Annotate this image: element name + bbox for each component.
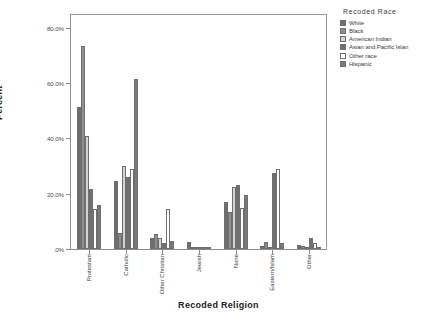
- legend-title: Recoded Race: [343, 8, 436, 15]
- legend-item-label: White: [349, 20, 364, 26]
- y-axis-tick: [66, 83, 70, 84]
- y-axis-tick-label: 80.0%: [24, 24, 64, 31]
- legend-item-label: Black: [349, 28, 363, 34]
- legend: Recoded Race WhiteBlackAmerican IndianAs…: [340, 8, 436, 68]
- bar-group: [187, 14, 211, 249]
- y-axis-tick-label: 40.0%: [24, 135, 64, 142]
- bar-group: [297, 14, 321, 249]
- x-axis-category-label: Jewish: [196, 254, 202, 272]
- bar-group: [260, 14, 284, 249]
- y-axis-tick: [66, 28, 70, 29]
- legend-swatch: [340, 20, 346, 26]
- legend-swatch: [340, 36, 346, 42]
- bar: [134, 79, 138, 249]
- bar-group: [150, 14, 174, 249]
- y-axis-tick-label: .0%: [24, 246, 64, 253]
- bar: [97, 205, 101, 249]
- legend-swatch: [340, 28, 346, 34]
- bar-chart: Percent .0%20.0%40.0%60.0%80.0% Protesta…: [0, 0, 437, 326]
- x-axis-category-label: Protestant: [86, 254, 92, 281]
- x-axis-category-label: Eastern/Islam: [269, 254, 275, 291]
- bar: [244, 195, 248, 249]
- legend-swatch: [340, 53, 346, 59]
- legend-item[interactable]: White: [340, 19, 436, 27]
- legend-item[interactable]: Black: [340, 27, 436, 35]
- legend-item-label: Other race: [349, 53, 377, 59]
- bar: [276, 169, 280, 249]
- y-axis-title: Percent: [0, 86, 4, 120]
- bar: [170, 241, 174, 249]
- y-axis-tick-label: 20.0%: [24, 190, 64, 197]
- x-axis-category-label: Other Christian: [159, 254, 165, 294]
- bar-group: [224, 14, 248, 249]
- y-axis-tick: [66, 194, 70, 195]
- legend-item-label: American Indian: [349, 36, 392, 42]
- x-axis-title: Recoded Religion: [0, 300, 437, 310]
- legend-swatch: [340, 44, 346, 50]
- legend-item-label: Asian and Pacific Islan: [349, 44, 408, 50]
- y-axis-tick-label: 60.0%: [24, 80, 64, 87]
- legend-item-label: Hispanic: [349, 61, 372, 67]
- y-axis-tick: [66, 138, 70, 139]
- bar-group: [114, 14, 138, 249]
- legend-swatch: [340, 61, 346, 67]
- bar-group: [77, 14, 101, 249]
- legend-item[interactable]: American Indian: [340, 35, 436, 43]
- bars-layer: [71, 14, 327, 249]
- x-axis-category-label: Other: [306, 254, 312, 269]
- legend-item[interactable]: Hispanic: [340, 60, 436, 68]
- legend-item[interactable]: Asian and Pacific Islan: [340, 44, 436, 52]
- legend-item[interactable]: Other race: [340, 52, 436, 60]
- x-axis-category-label: Catholic: [123, 254, 129, 276]
- legend-items: WhiteBlackAmerican IndianAsian and Pacif…: [340, 19, 436, 68]
- x-axis-category-label: None: [233, 254, 239, 268]
